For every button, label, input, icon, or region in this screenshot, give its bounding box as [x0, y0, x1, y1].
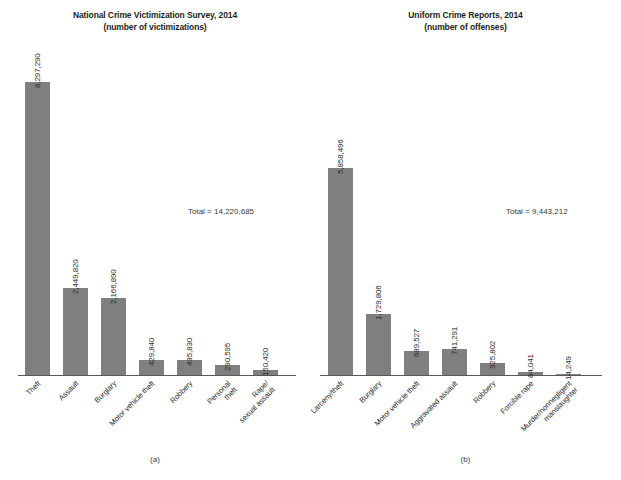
- bar-value-label: 14,249: [564, 356, 573, 380]
- bar: [63, 288, 88, 375]
- bar-value-label: 2,166,890: [109, 270, 118, 305]
- plot-area-ucr: 5,858,496Larceny/theft1,729,806Burglary6…: [310, 0, 621, 480]
- bar-value-label: 689,527: [412, 328, 421, 356]
- bar-value-label: 150,420: [261, 347, 270, 375]
- chart-panel-ncvs: National Crime Victimization Survey, 201…: [0, 0, 310, 480]
- x-axis-line: [18, 375, 296, 376]
- crime-statistics-figure: National Crime Victimization Survey, 201…: [0, 0, 621, 480]
- chart-panel-ucr: Uniform Crime Reports, 2014 (number of o…: [310, 0, 621, 480]
- bar: [366, 314, 391, 375]
- bar-value-label: 2,449,820: [71, 260, 80, 295]
- bar-value-label: 84,041: [526, 354, 535, 378]
- panel-caption-b: (b): [310, 455, 621, 464]
- plot-area-ncvs: 8,297,290Theft2,449,820Assault2,166,890B…: [0, 0, 310, 480]
- bar-value-label: 325,802: [488, 341, 497, 369]
- bar: [328, 168, 353, 375]
- bar-value-label: 8,297,290: [33, 53, 42, 88]
- bar-value-label: 1,729,806: [374, 285, 383, 320]
- bar: [25, 82, 50, 375]
- bar-value-label: 741,291: [450, 327, 459, 355]
- bar-value-label: 435,830: [185, 337, 194, 365]
- bar: [101, 298, 126, 375]
- x-axis-line: [320, 375, 602, 376]
- bar-value-label: 429,840: [147, 338, 156, 366]
- bar-value-label: 5,858,496: [336, 139, 345, 174]
- bar-value-label: 290,595: [223, 343, 232, 371]
